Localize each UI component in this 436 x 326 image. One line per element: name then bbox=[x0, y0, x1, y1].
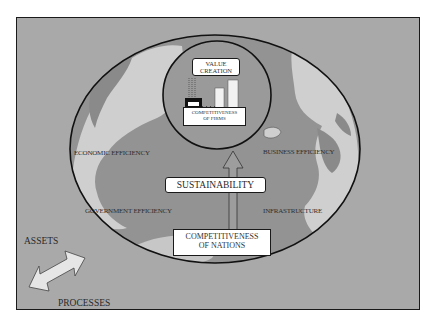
label-infrastructure: INFRASTRUCTURE bbox=[263, 208, 322, 215]
sustainability-box: SUSTAINABILITY bbox=[165, 177, 266, 193]
firms-line1: COMPETITIVENESS bbox=[184, 110, 245, 116]
value-creation-line2: CREATION bbox=[193, 67, 239, 74]
sustainability-label: SUSTAINABILITY bbox=[177, 180, 254, 190]
nations-line2: OF NATIONS bbox=[174, 242, 270, 251]
assets-processes-arrow bbox=[29, 251, 85, 291]
label-assets: ASSETS bbox=[24, 237, 58, 247]
label-government-efficiency: GOVERNMENT EFFICIENCY bbox=[85, 208, 172, 215]
label-processes: PROCESSES bbox=[58, 299, 110, 309]
label-economic-efficiency: ECONOMIC EFFICIENCY bbox=[74, 150, 150, 157]
firms-box: COMPETITIVENESS OF FIRMS bbox=[183, 107, 246, 126]
value-creation-line1: VALUE bbox=[193, 60, 239, 67]
diagram-frame: VALUE CREATION COMPETITIVENESS OF FIRMS … bbox=[16, 17, 420, 310]
nations-box: COMPETITIVENESS OF NATIONS bbox=[173, 229, 271, 256]
firms-line2: OF FIRMS bbox=[184, 116, 245, 122]
label-business-efficiency: BUSINESS EFFICIENCY bbox=[263, 149, 334, 156]
value-creation-box: VALUE CREATION bbox=[192, 58, 240, 76]
